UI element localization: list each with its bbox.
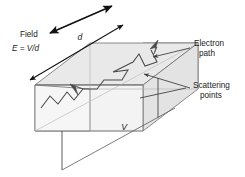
field-label-group: Field E = V/d bbox=[12, 30, 40, 53]
field-equation-text: E = V/d bbox=[12, 44, 40, 53]
field-arrow bbox=[50, 6, 112, 33]
scattering-points-label-line1: Scattering bbox=[193, 81, 230, 90]
field-label: Field bbox=[20, 30, 38, 39]
field-equation: E = V/d bbox=[12, 44, 40, 53]
electron-path-label-line1: Electron bbox=[194, 39, 224, 48]
scattering-points-label-line2: points bbox=[200, 91, 222, 100]
scattering-points-label-group: Scattering points bbox=[193, 81, 230, 100]
conductor-bar bbox=[35, 43, 198, 131]
diagram-figure: V d Field E = V/d bbox=[0, 0, 245, 177]
diagram-canvas: V d Field E = V/d bbox=[0, 0, 245, 177]
field-arrow-group bbox=[50, 6, 112, 33]
electron-path-label-group: Electron path bbox=[194, 39, 224, 58]
d-dimension-label: d bbox=[78, 32, 83, 42]
bar-face-near-end bbox=[35, 85, 90, 131]
electron-path-label-line2: path bbox=[199, 49, 215, 58]
